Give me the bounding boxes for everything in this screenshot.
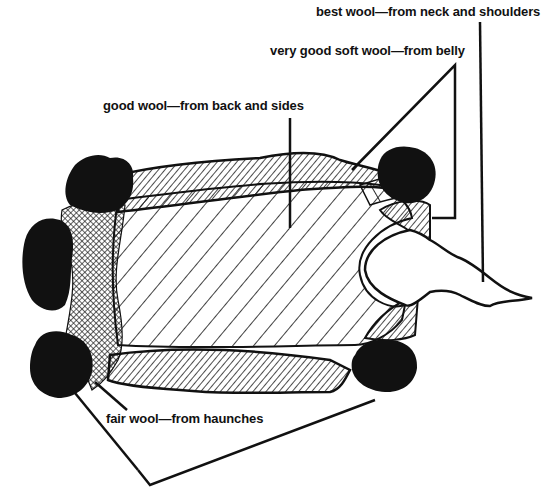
fleece-diagram (0, 0, 545, 498)
region-best-wool (365, 230, 532, 306)
label-very-good-wool: very good soft wool—from belly (270, 43, 465, 58)
label-fair-wool: fair wool—from haunches (106, 411, 263, 426)
label-best-wool: best wool—from neck and shoulders (316, 4, 540, 19)
label-good-wool: good wool—from back and sides (103, 98, 304, 113)
region-very-good-wool-bottom (108, 350, 350, 393)
